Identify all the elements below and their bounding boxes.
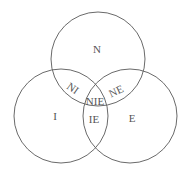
venn-diagram: N I E NI NE NIE IE — [0, 0, 190, 176]
label-nie: NIE — [86, 95, 105, 107]
label-ie: IE — [89, 113, 100, 125]
label-e: E — [129, 112, 136, 124]
label-n: N — [93, 43, 101, 55]
label-ne: NE — [107, 82, 126, 99]
circle-n — [51, 12, 145, 106]
label-i: I — [53, 110, 57, 122]
